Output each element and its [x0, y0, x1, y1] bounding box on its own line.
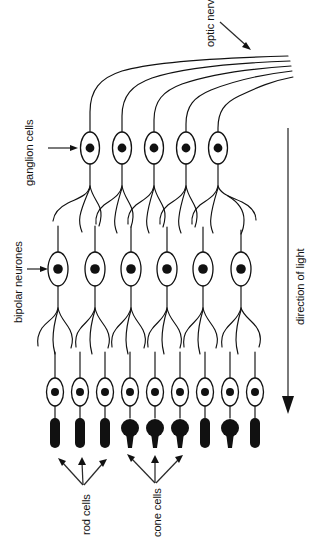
- ganglion-cells-label-group: ganglion cells: [23, 119, 78, 186]
- rod-cell-outer-segment: [100, 418, 110, 448]
- photoreceptor-soma: [247, 378, 264, 406]
- ganglion-cell: [113, 132, 132, 164]
- retina-diagram-svg: optic nerve: [0, 0, 319, 549]
- direction-of-light-group: direction of light: [282, 128, 306, 414]
- bipolar-neurones-pointer-arrow: [27, 266, 48, 272]
- optic-nerve-label-group: optic nerve: [204, 0, 251, 50]
- rod-cells-label-group: rod cells: [58, 457, 107, 535]
- photoreceptor-soma: [197, 378, 214, 406]
- ganglion-cells-pointer-arrow: [48, 145, 78, 151]
- ganglion-cells-label: ganglion cells: [23, 119, 35, 186]
- bipolar-neurone: [157, 252, 177, 286]
- rod-cell-outer-segment: [250, 418, 260, 448]
- cone-cells-label: cone cells: [151, 488, 163, 537]
- rod-cells-label: rod cells: [80, 494, 92, 535]
- bipolar-neurone: [85, 252, 105, 286]
- bipolar-neurone-layer: [48, 226, 251, 308]
- retina-diagram-canvas: optic nerve: [0, 0, 319, 549]
- direction-of-light-label: direction of light: [294, 247, 306, 325]
- bipolar-neurone: [48, 252, 68, 286]
- cone-cells-arrows: [127, 454, 183, 483]
- bipolar-neurones-label-group: bipolar neurones: [12, 241, 48, 323]
- ganglion-cell: [145, 132, 164, 164]
- ganglion-cell: [81, 132, 100, 164]
- rod-cell-outer-segment: [75, 418, 85, 448]
- optic-nerve-pointer-arrow: [220, 22, 251, 50]
- optic-nerve-fibres: [90, 56, 293, 135]
- optic-nerve-label: optic nerve: [204, 0, 216, 47]
- bipolar-neurones-label: bipolar neurones: [12, 241, 24, 323]
- bipolar-neurone: [193, 252, 213, 286]
- direction-of-light-arrowhead: [282, 396, 294, 414]
- photoreceptor-soma: [147, 378, 164, 406]
- rod-cells-arrows: [58, 457, 107, 485]
- cone-cell-outer-segment: [171, 419, 189, 448]
- outer-plexiform-dendrites: [38, 308, 261, 354]
- photoreceptor-soma: [72, 378, 89, 406]
- photoreceptor-layer: [47, 352, 264, 448]
- cone-cell-outer-segment: [221, 419, 239, 448]
- rod-cell-outer-segment: [50, 418, 60, 448]
- ganglion-cell-layer: [81, 132, 228, 186]
- photoreceptor-soma: [97, 378, 114, 406]
- cone-cell-outer-segment: [121, 419, 139, 448]
- inner-plexiform-dendrites: [53, 186, 256, 234]
- rod-cell-outer-segment: [200, 418, 210, 448]
- bipolar-neurone: [121, 252, 141, 286]
- ganglion-cell: [177, 132, 196, 164]
- photoreceptor-soma: [172, 378, 189, 406]
- cone-cell-outer-segment: [146, 419, 164, 448]
- photoreceptor-soma: [222, 378, 239, 406]
- ganglion-cell: [209, 132, 228, 164]
- photoreceptor-soma: [47, 378, 64, 406]
- cone-cells-label-group: cone cells: [127, 454, 183, 537]
- bipolar-neurone: [231, 252, 251, 286]
- photoreceptor-soma: [122, 378, 139, 406]
